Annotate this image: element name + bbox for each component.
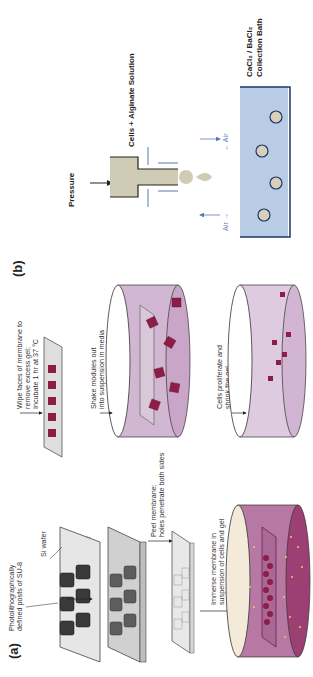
air-left-label: Air → (222, 213, 230, 231)
solution-label: Cells + Alginate Solution (128, 53, 136, 147)
air-right-label: ← Air (222, 133, 230, 151)
bath-label-line2: Collection Bath (256, 18, 264, 77)
dish-cells-and-gel (226, 505, 310, 657)
collection-bath (240, 87, 290, 237)
figure-rotated-frame: (a) Photolithographically defined posts … (0, 0, 313, 677)
si-wafer-with-posts (26, 527, 100, 662)
panel-b-label: (b) (10, 260, 25, 277)
diagram-graphics (0, 0, 313, 677)
dish-shrunk-gel (228, 285, 306, 437)
bath-label-line1: CaCl₂ / BaCl₂ (246, 27, 254, 77)
pdms-membrane-on-wafer (108, 527, 146, 662)
pressure-label: Pressure (68, 173, 76, 207)
dish-modules-suspension (106, 285, 190, 437)
syringe-nozzle (110, 147, 212, 207)
membrane-filled-gel (44, 337, 62, 457)
peeled-membrane (172, 531, 194, 653)
